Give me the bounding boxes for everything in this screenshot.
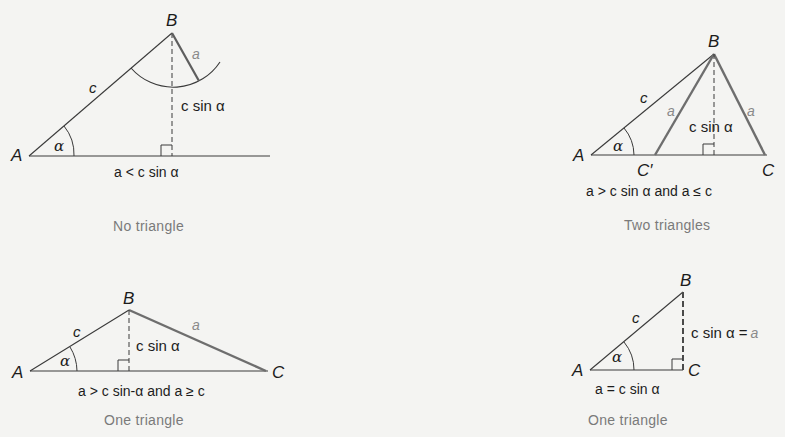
angle-alpha-label: α <box>613 139 623 154</box>
caption-one-triangle: One triangle <box>104 413 184 427</box>
swing-arc <box>131 62 220 87</box>
side-a-label: a <box>751 325 759 341</box>
vertex-c-label: C <box>272 364 284 381</box>
vertex-b-label: B <box>708 33 719 50</box>
side-c <box>29 33 172 156</box>
side-a-right <box>714 54 765 155</box>
vertex-c-label: C <box>688 362 700 379</box>
vertex-a-label: A <box>12 364 23 381</box>
vertex-a-label: A <box>572 362 583 379</box>
angle-alpha-arc <box>624 128 634 155</box>
side-a-label: a <box>192 318 200 332</box>
diagram-no-triangle <box>29 33 270 156</box>
condition-label: a < c sin α <box>114 165 179 179</box>
angle-alpha-arc <box>64 126 74 156</box>
height-label: c sin α <box>181 98 225 113</box>
side-a-left <box>655 54 714 155</box>
side-c <box>590 292 683 370</box>
diagram-one-triangle-right <box>590 292 683 370</box>
side-c <box>30 310 129 371</box>
side-c-label: c <box>89 80 97 95</box>
height-expr: c sin α = <box>691 324 748 341</box>
side-c-label: c <box>640 90 648 105</box>
side-a-right-label: a <box>747 104 755 118</box>
angle-alpha-arc <box>624 342 634 370</box>
vertex-b-label: B <box>166 12 177 29</box>
condition-label: a > c sin-α and a ≥ c <box>78 384 205 398</box>
side-c-label: c <box>73 324 81 339</box>
angle-alpha-label: α <box>60 354 70 369</box>
caption-no-triangle: No triangle <box>113 219 184 233</box>
vertex-b-label: B <box>680 272 691 289</box>
right-angle-mark <box>161 145 172 156</box>
caption-one-triangle-right: One triangle <box>588 413 668 427</box>
side-a-left-label: a <box>667 104 675 118</box>
right-angle-mark <box>118 360 129 371</box>
vertex-b-label: B <box>123 290 134 307</box>
side-a-label: a <box>192 47 200 61</box>
right-angle-mark <box>703 144 714 155</box>
angle-alpha-label: α <box>612 350 622 365</box>
angle-alpha-arc <box>70 347 77 371</box>
height-label: c sin α <box>689 119 733 134</box>
height-label: c sin α =a <box>691 325 758 340</box>
angle-alpha-label: α <box>54 139 64 154</box>
condition-label: a = c sin α <box>595 382 660 396</box>
right-angle-mark <box>672 359 683 370</box>
height-label: c sin α <box>136 338 180 353</box>
vertex-c-label: C <box>762 162 774 179</box>
caption-two-triangles: Two triangles <box>624 218 710 232</box>
side-c <box>591 54 714 155</box>
vertex-a-label: A <box>573 147 584 164</box>
vertex-c-prime-label: C′ <box>637 162 652 179</box>
vertex-a-label: A <box>11 147 22 164</box>
condition-label: a > c sin α and a ≤ c <box>586 184 712 198</box>
side-c-label: c <box>632 310 640 325</box>
